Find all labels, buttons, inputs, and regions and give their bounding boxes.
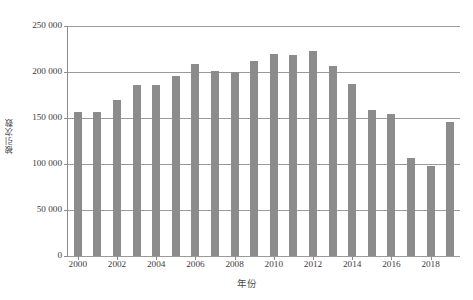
bar — [133, 85, 141, 256]
bar — [329, 66, 337, 256]
plot-area — [68, 26, 460, 256]
bar — [152, 85, 160, 256]
y-tick-label: 250 000 — [0, 21, 62, 30]
bar — [250, 61, 258, 256]
y-axis-line — [67, 26, 68, 256]
y-tick-mark — [64, 72, 68, 73]
x-tick-label: 2004 — [147, 260, 165, 269]
gridline — [68, 118, 460, 119]
x-tick-label: 2008 — [225, 260, 243, 269]
x-tick-label: 2006 — [186, 260, 204, 269]
y-tick-label: 200 000 — [0, 67, 62, 76]
gridline — [68, 164, 460, 165]
x-tick-label: 2016 — [382, 260, 400, 269]
y-tick-mark — [64, 256, 68, 257]
bar — [270, 54, 278, 256]
x-tick-label: 2012 — [304, 260, 322, 269]
bar — [407, 158, 415, 256]
x-tick-label: 2018 — [421, 260, 439, 269]
bar — [368, 110, 376, 256]
y-tick-label: 0 — [0, 251, 62, 260]
y-tick-mark — [64, 210, 68, 211]
y-tick-mark — [64, 118, 68, 119]
y-tick-mark — [64, 26, 68, 27]
x-tick-label: 2014 — [343, 260, 361, 269]
gridline — [68, 26, 460, 27]
y-tick-label: 100 000 — [0, 159, 62, 168]
bar — [348, 84, 356, 256]
gridline — [68, 256, 460, 257]
gridline — [68, 210, 460, 211]
bar — [309, 51, 317, 256]
bar — [74, 112, 82, 256]
x-tick-label: 2002 — [108, 260, 126, 269]
x-tick-label: 2010 — [265, 260, 283, 269]
x-axis-tick-labels: 2000200220042006200820102012201420162018 — [68, 258, 460, 274]
x-axis-title-text: 年份 — [237, 279, 257, 289]
bar — [93, 112, 101, 256]
bar — [191, 64, 199, 256]
bar — [172, 76, 180, 256]
bar — [446, 122, 454, 256]
x-tick-label: 2000 — [69, 260, 87, 269]
y-tick-label: 150 000 — [0, 113, 62, 122]
bar — [289, 55, 297, 256]
bar — [113, 100, 121, 256]
y-tick-mark — [64, 164, 68, 165]
bar — [427, 166, 435, 256]
y-tick-label: 50 000 — [0, 205, 62, 214]
gridline — [68, 72, 460, 73]
bar — [231, 72, 239, 256]
y-axis-tick-labels: 050 000100 000150 000200 000250 000 — [0, 26, 62, 256]
bar — [387, 114, 395, 256]
bar — [211, 71, 219, 256]
citation-bar-chart: 被引次数 050 000100 000150 000200 000250 000… — [0, 0, 473, 300]
x-axis-title: 年份 — [0, 276, 473, 290]
